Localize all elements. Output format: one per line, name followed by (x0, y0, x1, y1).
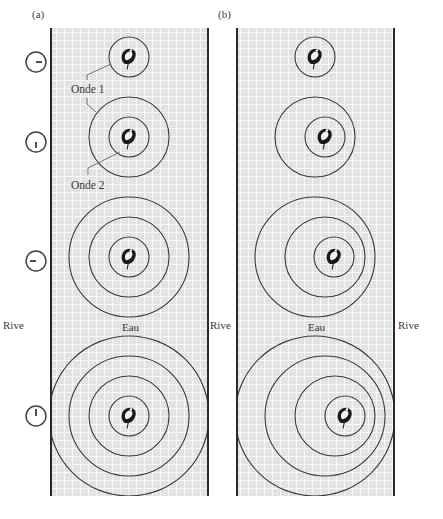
wave2-label: Onde 2 (71, 179, 105, 191)
clock-icons (26, 52, 46, 426)
panel-b-label: (b) (218, 8, 231, 20)
clock-icon (26, 52, 46, 72)
panel-a-label: (a) (32, 8, 44, 20)
water-area-b (237, 28, 394, 496)
water-label-a: Eau (120, 321, 141, 333)
shore-label-right: Rive (398, 319, 419, 331)
clock-icon (26, 406, 46, 426)
shore-label-middle: Rive (210, 319, 231, 331)
shore-label-left: Rive (3, 319, 24, 331)
panel-b (235, 28, 395, 496)
ripple-diagram (0, 0, 443, 519)
wave1-label: Onde 1 (71, 83, 105, 95)
water-label-b: Eau (306, 321, 327, 333)
panel-a (49, 28, 209, 496)
clock-icon (26, 251, 46, 271)
clock-icon (26, 132, 46, 152)
